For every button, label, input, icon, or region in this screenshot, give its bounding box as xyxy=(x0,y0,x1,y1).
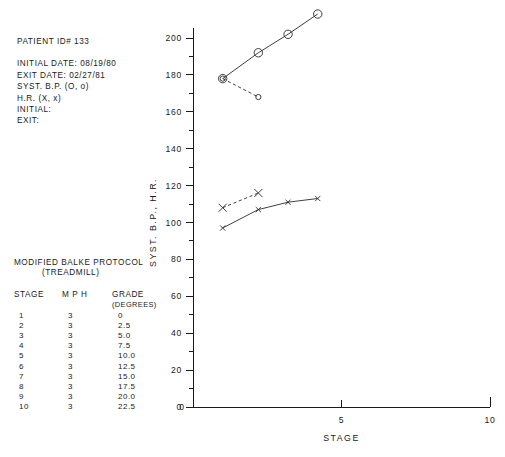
cell-mph: 3 xyxy=(60,392,106,402)
y-tick-label: 200 xyxy=(166,33,182,43)
x-axis-title: STAGE xyxy=(323,433,360,443)
cell-mph: 3 xyxy=(60,320,106,330)
cell-stage: 10 xyxy=(14,402,60,412)
cell-mph: 3 xyxy=(60,371,106,381)
cell-stage: 9 xyxy=(14,392,60,402)
cell-stage: 5 xyxy=(14,351,60,361)
y-tick-label: 140 xyxy=(166,144,182,154)
y-tick-label: 20 xyxy=(171,365,182,375)
cell-stage: 1 xyxy=(14,310,60,320)
x-tick-label: 0 xyxy=(179,402,184,412)
series-0 xyxy=(219,10,322,83)
series-3 xyxy=(220,196,320,231)
chart-svg: 020406080100120140160180200 0510 STAGE S… xyxy=(140,0,505,457)
cell-mph: 3 xyxy=(60,402,106,412)
series-line xyxy=(223,199,318,229)
y-tick-label: 100 xyxy=(166,218,182,228)
series-line xyxy=(223,14,318,79)
cell-mph: 3 xyxy=(60,351,106,361)
cell-stage: 7 xyxy=(14,371,60,381)
cell-stage: 2 xyxy=(14,320,60,330)
cell-stage: 4 xyxy=(14,341,60,351)
data-point-marker-cross xyxy=(220,225,225,230)
x-tick-label: 10 xyxy=(485,415,496,425)
y-axis-tick-labels: 020406080100120140160180200 xyxy=(166,33,182,412)
series-line xyxy=(223,193,259,208)
patient-hr-legend: H.R. (X, x) xyxy=(17,93,116,104)
y-tick-label: 60 xyxy=(171,291,182,301)
data-point-marker-circle xyxy=(256,94,261,99)
cell-mph: 3 xyxy=(60,341,106,351)
patient-initial-label: INITIAL: xyxy=(17,104,116,115)
patient-exit-date: EXIT DATE: 02/27/81 xyxy=(17,70,116,81)
data-point-marker-cross xyxy=(219,204,227,212)
cell-stage: 6 xyxy=(14,361,60,371)
column-header-mph: M P H xyxy=(60,290,106,310)
series-2 xyxy=(219,189,263,212)
y-axis-ticks xyxy=(186,38,193,407)
patient-info-block: PATIENT ID# 133 INITIAL DATE: 08/19/80 E… xyxy=(17,36,116,127)
y-tick-label: 180 xyxy=(166,70,182,80)
cell-mph: 3 xyxy=(60,330,106,340)
y-tick-label: 120 xyxy=(166,181,182,191)
chart-panel: 020406080100120140160180200 0510 STAGE S… xyxy=(140,0,505,457)
chart-series-layer xyxy=(219,10,322,231)
x-axis-tick-labels: 0510 xyxy=(179,402,495,425)
y-tick-label: 40 xyxy=(171,328,182,338)
data-point-marker-cross xyxy=(254,189,262,197)
y-tick-label: 160 xyxy=(166,107,182,117)
patient-initial-date: INITIAL DATE: 08/19/80 xyxy=(17,58,116,69)
patient-systbp-legend: SYST. B.P. (O, o) xyxy=(17,81,116,92)
cell-mph: 3 xyxy=(60,361,106,371)
cell-stage: 8 xyxy=(14,381,60,391)
cell-stage: 3 xyxy=(14,330,60,340)
series-1 xyxy=(220,76,261,100)
y-axis-title: SYST. B.P., H.R. xyxy=(148,178,158,267)
cell-mph: 3 xyxy=(60,381,106,391)
cell-mph: 3 xyxy=(60,310,106,320)
series-line xyxy=(223,79,259,97)
patient-exit-label: EXIT: xyxy=(17,115,116,126)
x-axis-ticks xyxy=(193,397,490,407)
data-point-marker-circle xyxy=(314,10,322,18)
patient-id-line: PATIENT ID# 133 xyxy=(17,36,116,47)
x-tick-label: 5 xyxy=(339,415,344,425)
column-header-stage: STAGE xyxy=(14,290,60,310)
y-tick-label: 80 xyxy=(171,254,182,264)
